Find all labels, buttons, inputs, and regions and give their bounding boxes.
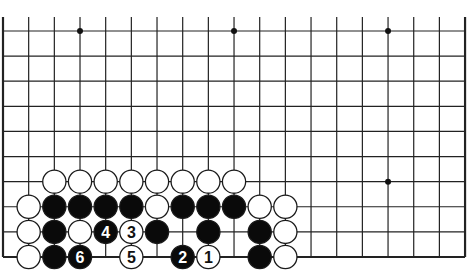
white-stone xyxy=(17,220,40,243)
black-stone xyxy=(171,195,194,218)
black-stone xyxy=(248,220,271,243)
black-stone xyxy=(197,220,220,243)
white-stone xyxy=(120,170,143,193)
white-stone-move-3: 3 xyxy=(120,220,143,243)
black-stone-move-2: 2 xyxy=(171,245,194,268)
white-stone xyxy=(274,220,297,243)
white-stone xyxy=(274,245,297,268)
white-stone xyxy=(68,220,91,243)
move-number-label: 5 xyxy=(127,249,136,266)
white-stone xyxy=(197,170,220,193)
white-stone xyxy=(17,195,40,218)
black-stone xyxy=(222,195,245,218)
black-stone-move-6: 6 xyxy=(68,245,91,268)
move-number-label: 6 xyxy=(76,249,85,266)
white-stone xyxy=(43,170,66,193)
white-stone xyxy=(17,245,40,268)
black-stone xyxy=(248,245,271,268)
star-point-icon xyxy=(385,179,391,185)
black-stone xyxy=(68,195,91,218)
move-number-label: 1 xyxy=(204,249,213,266)
black-stone xyxy=(43,245,66,268)
white-stone xyxy=(68,170,91,193)
star-point-icon xyxy=(385,28,391,34)
black-stone xyxy=(197,195,220,218)
black-stone xyxy=(43,220,66,243)
white-stone-move-5: 5 xyxy=(120,245,143,268)
move-number-label: 2 xyxy=(178,249,187,266)
white-stone xyxy=(145,170,168,193)
black-stone xyxy=(145,220,168,243)
black-stone xyxy=(120,195,143,218)
white-stone xyxy=(94,170,117,193)
move-number-label: 3 xyxy=(127,224,136,241)
go-board: 436521 xyxy=(0,0,474,277)
white-stone-move-1: 1 xyxy=(197,245,220,268)
star-point-icon xyxy=(231,28,237,34)
white-stone xyxy=(145,195,168,218)
move-number-label: 4 xyxy=(101,224,110,241)
black-stone-move-4: 4 xyxy=(94,220,117,243)
black-stone xyxy=(94,195,117,218)
white-stone xyxy=(248,195,271,218)
grid-lines xyxy=(3,17,465,257)
star-point-icon xyxy=(77,28,83,34)
white-stone xyxy=(222,170,245,193)
white-stone xyxy=(171,170,194,193)
white-stone xyxy=(274,195,297,218)
black-stone xyxy=(43,195,66,218)
